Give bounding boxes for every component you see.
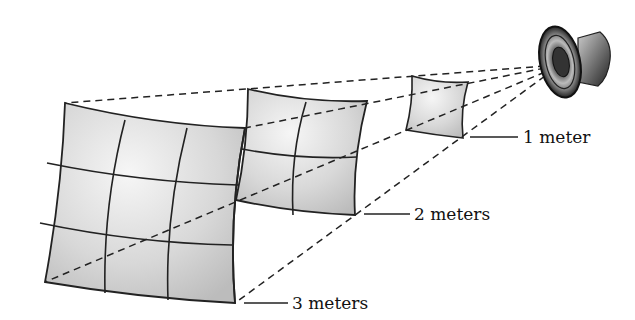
label-3m: 3 meters	[244, 293, 368, 313]
label-1m: 1 meter	[470, 127, 591, 147]
panel-3m	[40, 103, 245, 303]
svg-text:3 meters: 3 meters	[292, 293, 368, 313]
label-2m: 2 meters	[364, 204, 490, 224]
svg-text:1 meter: 1 meter	[523, 127, 591, 147]
svg-text:2 meters: 2 meters	[414, 204, 490, 224]
panel-2m	[236, 89, 367, 215]
inverse-square-diagram: 1 meter 2 meters 3 meters	[0, 0, 635, 320]
speaker-icon	[533, 23, 610, 102]
